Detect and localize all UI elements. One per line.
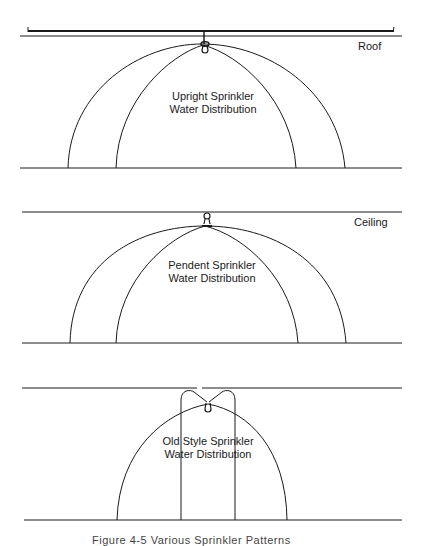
old-style-title-line2: Water Distribution: [162, 448, 253, 461]
figure-caption: Figure 4-5 Various Sprinkler Patterns: [92, 534, 291, 546]
pendent-title-line1: Pendent Sprinkler: [168, 259, 255, 272]
upright-bulb-icon: [202, 46, 208, 53]
old-style-title-line1: Old Style Sprinkler: [162, 435, 253, 448]
old-style-title: Old Style Sprinkler Water Distribution: [162, 435, 253, 461]
upright-title: Upright Sprinkler Water Distribution: [169, 90, 256, 116]
upright-title-line1: Upright Sprinkler: [169, 90, 256, 103]
pendent-title: Pendent Sprinkler Water Distribution: [168, 259, 255, 285]
pendent-title-line2: Water Distribution: [168, 272, 255, 285]
ceiling-label: Ceiling: [354, 216, 388, 229]
pendent-bulb-icon: [204, 213, 210, 219]
upright-title-line2: Water Distribution: [169, 103, 256, 116]
pendent-frame: [204, 219, 210, 224]
old-style-outer-arc: [117, 404, 287, 520]
roof-label: Roof: [358, 40, 381, 53]
